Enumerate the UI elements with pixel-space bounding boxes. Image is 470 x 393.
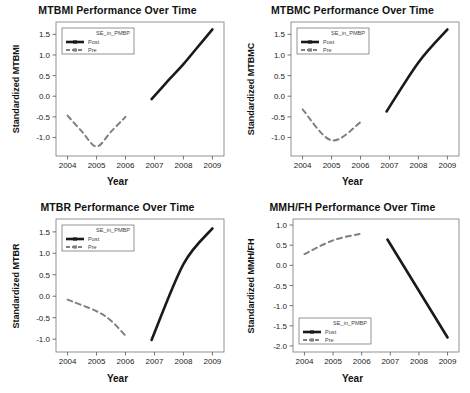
y-tick-label: -0.5 <box>36 314 50 323</box>
series-line-pre <box>303 109 361 140</box>
x-tick-label: 2008 <box>175 357 193 366</box>
plot-area-mtbmi: 2004200520062007200820091.51.00.50.0-0.5… <box>0 0 235 196</box>
panel-mmhfh: MMH/FH Performance Over Time Standardize… <box>235 196 470 393</box>
x-tick-label: 2005 <box>324 357 342 366</box>
x-tick-label: 2007 <box>146 357 164 366</box>
plot-area-mtbr: 2004200520062007200820091.51.00.50.0-0.5… <box>0 196 235 393</box>
legend-marker-icon <box>73 237 77 240</box>
y-tick-label: -1.0 <box>36 133 50 142</box>
legend-label-pre: Pre <box>323 47 332 53</box>
plot-area-mmhfh: 2004200520062007200820091.00.50.0-0.5-1.… <box>235 196 470 393</box>
y-tick-label: 1.5 <box>39 228 51 237</box>
y-tick-label: -1.0 <box>273 302 287 311</box>
legend-title: SE_in_PMBP <box>333 320 367 326</box>
legend-label-pre: Pre <box>325 337 334 343</box>
legend-marker-icon <box>73 40 77 43</box>
series-line-pre <box>304 234 361 255</box>
x-tick-label: 2004 <box>59 161 77 170</box>
x-tick-label: 2004 <box>294 161 312 170</box>
y-tick-label: 0.5 <box>39 271 51 280</box>
plot-area-mtbmc: 2004200520062007200820091.51.00.50.0-0.5… <box>235 0 470 196</box>
y-tick-label: -0.5 <box>36 113 50 122</box>
y-tick-label: 0.0 <box>39 292 51 301</box>
legend-marker-icon <box>310 338 314 341</box>
x-tick-label: 2006 <box>117 357 135 366</box>
y-tick-label: 0.0 <box>276 261 288 270</box>
panel-mtbr: MTBR Performance Over Time Standardized … <box>0 196 235 393</box>
y-tick-label: -2.0 <box>273 342 287 351</box>
series-line-post <box>152 228 213 340</box>
y-tick-label: -1.5 <box>273 322 287 331</box>
legend-title: SE_in_PMBP <box>96 30 130 36</box>
x-tick-label: 2007 <box>146 161 164 170</box>
x-axis-label-mtbmc: Year <box>235 176 470 187</box>
x-tick-label: 2009 <box>439 161 457 170</box>
x-tick-label: 2009 <box>204 357 222 366</box>
legend-marker-icon <box>310 330 314 333</box>
x-tick-label: 2005 <box>88 357 106 366</box>
y-tick-label: 0.0 <box>39 92 51 101</box>
x-tick-label: 2004 <box>59 357 77 366</box>
x-axis-label-mmhfh: Year <box>235 373 470 384</box>
y-tick-label: 0.5 <box>39 72 51 81</box>
y-tick-label: -1.0 <box>36 335 50 344</box>
y-tick-label: 1.0 <box>274 51 286 60</box>
x-tick-label: 2005 <box>323 161 341 170</box>
x-tick-label: 2007 <box>381 161 399 170</box>
x-tick-label: 2004 <box>296 357 314 366</box>
y-tick-label: 1.0 <box>39 51 51 60</box>
legend-label-post: Post <box>88 39 100 45</box>
x-tick-label: 2006 <box>353 357 371 366</box>
x-tick-label: 2006 <box>352 161 370 170</box>
legend-marker-icon <box>73 48 77 51</box>
panel-mtbmi: MTBMI Performance Over Time Standardized… <box>0 0 235 196</box>
legend-title: SE_in_PMBP <box>96 227 130 233</box>
y-tick-label: -0.5 <box>273 282 287 291</box>
x-axis-label-mtbmi: Year <box>0 176 235 187</box>
series-line-post <box>387 240 447 338</box>
x-tick-label: 2005 <box>88 161 106 170</box>
legend-label-post: Post <box>88 236 100 242</box>
x-tick-label: 2008 <box>175 161 193 170</box>
y-tick-label: 1.5 <box>39 30 51 39</box>
x-tick-label: 2007 <box>381 357 399 366</box>
legend-marker-icon <box>308 48 312 51</box>
y-tick-label: 1.5 <box>274 30 286 39</box>
panel-mtbmc: MTBMC Performance Over Time Standardized… <box>235 0 470 196</box>
x-tick-label: 2006 <box>117 161 135 170</box>
y-tick-label: -0.5 <box>271 113 285 122</box>
x-tick-label: 2009 <box>439 357 457 366</box>
y-tick-label: 0.5 <box>276 241 288 250</box>
series-line-pre <box>68 300 126 336</box>
y-tick-label: -1.0 <box>271 133 285 142</box>
y-tick-label: 1.0 <box>276 221 288 230</box>
legend-label-post: Post <box>325 329 337 335</box>
y-tick-label: 0.0 <box>274 92 286 101</box>
legend-label-pre: Pre <box>88 244 97 250</box>
series-line-post <box>387 29 448 111</box>
series-line-post <box>152 29 213 99</box>
x-tick-label: 2008 <box>410 161 428 170</box>
legend-label-post: Post <box>323 39 335 45</box>
legend-label-pre: Pre <box>88 47 97 53</box>
series-line-pre <box>68 116 126 147</box>
x-tick-label: 2009 <box>204 161 222 170</box>
legend-title: SE_in_PMBP <box>331 30 365 36</box>
y-tick-label: 0.5 <box>274 72 286 81</box>
x-tick-label: 2008 <box>410 357 428 366</box>
figure-grid: MTBMI Performance Over Time Standardized… <box>0 0 470 393</box>
legend-marker-icon <box>73 245 77 248</box>
x-axis-label-mtbr: Year <box>0 373 235 384</box>
legend-marker-icon <box>308 40 312 43</box>
y-tick-label: 1.0 <box>39 249 51 258</box>
